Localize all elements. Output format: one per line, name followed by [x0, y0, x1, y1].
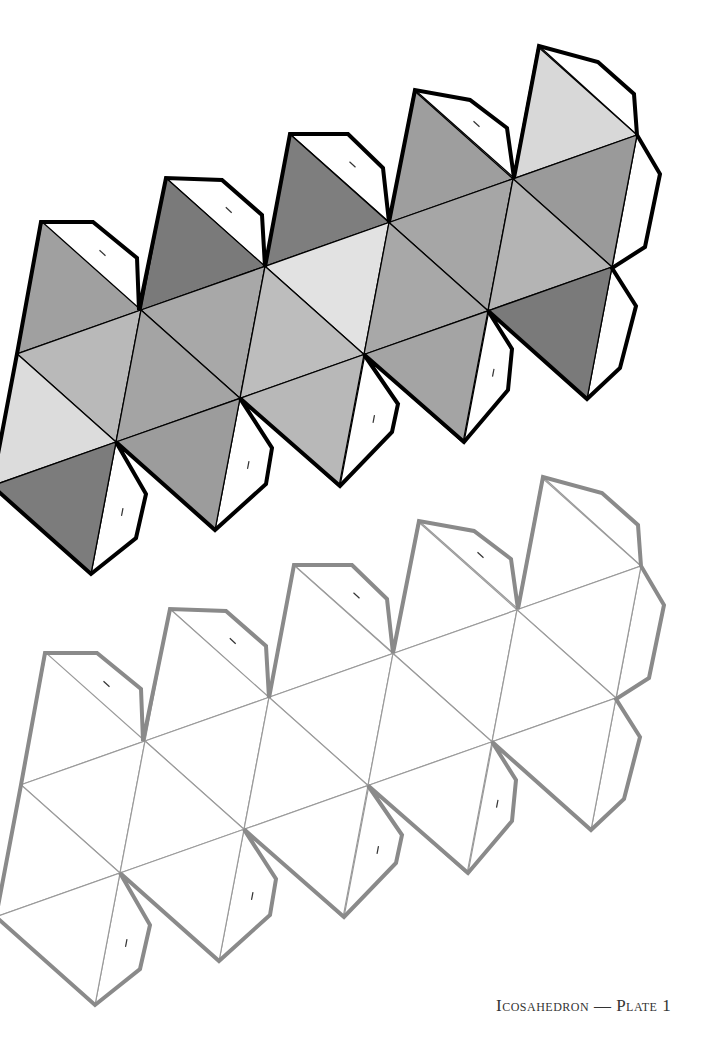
plate-caption: Icosahedron — Plate 1 — [496, 996, 671, 1016]
icosahedron-plate — [0, 0, 717, 1046]
